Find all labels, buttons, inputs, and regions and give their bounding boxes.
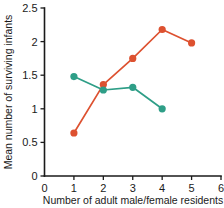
y-tick-label: 0.5	[22, 136, 37, 148]
series-line	[74, 30, 192, 133]
y-tick-label: 0	[31, 170, 37, 182]
data-point	[159, 105, 166, 112]
x-tick-label: 2	[100, 182, 106, 194]
x-axis-title: Number of adult male/female residents	[43, 194, 223, 206]
y-tick-label: 2	[31, 36, 37, 48]
x-tick-label-group: 0123456	[41, 182, 224, 194]
y-tick-label-group: 00.511.522.5	[22, 2, 37, 182]
y-tick-label: 2.5	[22, 2, 37, 14]
data-point	[129, 55, 136, 62]
data-point	[70, 73, 77, 80]
x-tick-label: 5	[189, 182, 195, 194]
series-line	[74, 77, 162, 109]
x-axis: 0123456	[41, 176, 224, 194]
data-point	[188, 39, 195, 46]
y-axis: 00.511.522.5	[22, 2, 44, 182]
x-tick-label: 4	[159, 182, 165, 194]
x-tick-label: 3	[130, 182, 136, 194]
x-tick-label: 1	[71, 182, 77, 194]
x-tick-label: 6	[218, 182, 224, 194]
line-chart: 00.511.522.5 0123456 Number of adult mal…	[0, 0, 224, 208]
y-axis-title: Mean number of surviving infants	[2, 15, 14, 170]
series-orange-series	[70, 26, 195, 137]
y-tick-label: 1	[31, 103, 37, 115]
data-point	[159, 26, 166, 33]
data-point	[100, 86, 107, 93]
x-tick-label: 0	[41, 182, 47, 194]
series-teal-series	[70, 73, 165, 112]
data-point	[129, 84, 136, 91]
data-point	[70, 129, 77, 136]
series-layer	[70, 26, 195, 137]
chart-figure: 00.511.522.5 0123456 Number of adult mal…	[0, 0, 224, 208]
y-tick-label: 1.5	[22, 69, 37, 81]
